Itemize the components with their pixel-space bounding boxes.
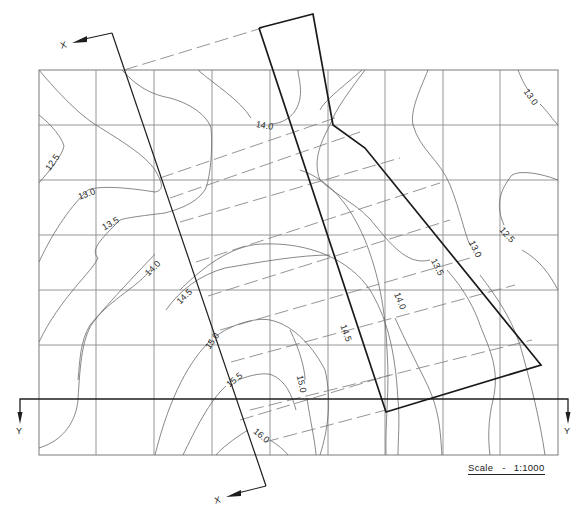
contour-label: 16.0 bbox=[252, 426, 272, 445]
x-axis-label-bottom: X bbox=[213, 494, 221, 505]
contour-label: 13.0 bbox=[77, 186, 97, 201]
scale-note: Scale - 1:1000 bbox=[468, 462, 545, 475]
y-axis-label-right: Y bbox=[564, 426, 570, 436]
plot-boundary bbox=[259, 14, 541, 412]
x-axis-arrow-top-icon bbox=[72, 36, 87, 43]
scale-separator: - bbox=[502, 462, 505, 473]
x-axis-arrow-bottom-icon bbox=[226, 490, 241, 497]
contour-plan-drawing: X X Y Y 12.5 13.0 13.5 14.0 14.5 15.0 15… bbox=[0, 0, 588, 515]
y-axis-arrow-left-icon bbox=[18, 412, 23, 424]
scale-label: Scale bbox=[468, 462, 493, 473]
contour-label: 14.0 bbox=[255, 119, 274, 132]
contour-label: 14.5 bbox=[338, 323, 353, 343]
contour-lines bbox=[39, 70, 558, 455]
contour-label: 14.0 bbox=[392, 291, 408, 311]
contour-label: 12.5 bbox=[43, 152, 61, 172]
contour-label: 13.0 bbox=[467, 239, 483, 259]
y-axis-arrow-right-icon bbox=[566, 412, 571, 424]
contour-label: 13.0 bbox=[522, 87, 540, 107]
scale-value: 1:1000 bbox=[514, 462, 545, 473]
y-axis-line bbox=[20, 399, 568, 414]
contour-label: 15.0 bbox=[295, 374, 308, 393]
survey-grid bbox=[39, 70, 558, 455]
contour-labels: 12.5 13.0 13.5 14.0 14.5 15.0 15.5 16.0 … bbox=[43, 87, 540, 445]
x-axis-line bbox=[80, 33, 266, 494]
x-axis-label-top: X bbox=[59, 39, 67, 50]
y-axis-label-left: Y bbox=[16, 426, 22, 436]
contour-label: 14.0 bbox=[143, 258, 162, 277]
